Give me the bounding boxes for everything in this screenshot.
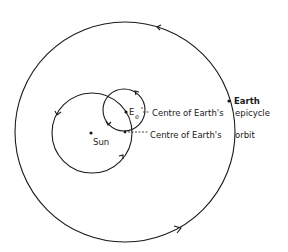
orbit-centre-point <box>124 131 127 134</box>
epicycle-centre-point <box>124 110 127 113</box>
arrow-icon <box>106 121 111 125</box>
earth-point <box>227 99 230 102</box>
epicycle-circle <box>103 89 145 131</box>
epicycle-centre-subscript: e <box>135 113 139 121</box>
earth-label: Earth <box>234 96 260 106</box>
epicycle-centre-label-2: epicycle <box>235 108 270 118</box>
orbit-centre-label-2: orbit <box>235 130 255 140</box>
epicycle-centre-label: Centre of Earth's <box>152 108 224 118</box>
sun-point <box>89 131 92 134</box>
sun-label: Sun <box>93 137 109 147</box>
orbit-centre-label: Centre of Earth's <box>150 130 222 140</box>
epicycle-centre-symbol: E <box>129 107 134 117</box>
epicycle-diagram: Sun Earth E e Centre of Earth's epicycle… <box>0 0 288 252</box>
